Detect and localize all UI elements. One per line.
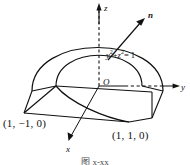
x-axis [68, 86, 99, 141]
point-label-left: (1, −1, 0) [3, 118, 46, 129]
z-axis-arrowhead [96, 3, 101, 10]
z-axis [96, 3, 101, 86]
y-axis-label: y [181, 83, 185, 92]
point-label-right: (1, 1, 0) [112, 130, 149, 141]
normal-vector-label: n [148, 11, 153, 20]
x-axis-label: x [66, 145, 70, 154]
z-axis-label: z [104, 4, 108, 13]
origin-label: O [103, 78, 110, 87]
normal-vector-arrowhead [136, 18, 145, 26]
y-axis [99, 84, 180, 89]
cylinder-surface-diagram [0, 0, 190, 165]
surface-right-ruling [142, 86, 163, 91]
equation-equals: = 1 [124, 50, 135, 60]
inner-semicircle-arc [56, 55, 142, 86]
surface-right-edge [152, 91, 163, 118]
y-axis-arrowhead [173, 84, 180, 89]
outer-semicircle-arc [32, 48, 163, 92]
surface-equation-label: y2+z2= 1 [106, 49, 135, 59]
figure-caption: 图 x-xx [0, 155, 190, 165]
figure-container: z y x O n y2+z2= 1 (1, −1, 0) (1, 1, 0) … [0, 0, 190, 165]
base-right-front-edge [129, 118, 152, 122]
